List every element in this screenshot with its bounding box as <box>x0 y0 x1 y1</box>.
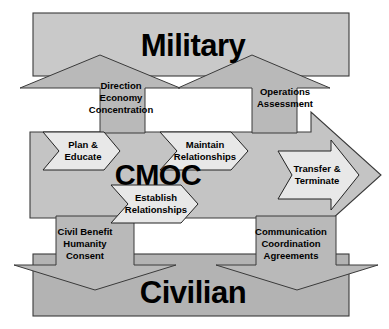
civilian-band-label: Civilian <box>140 275 246 310</box>
svg-text:Concentration: Concentration <box>89 104 154 115</box>
svg-text:Operations: Operations <box>260 86 310 97</box>
svg-text:Consent: Consent <box>66 250 105 261</box>
svg-text:Direction: Direction <box>100 80 141 91</box>
svg-text:Maintain: Maintain <box>186 139 225 150</box>
svg-text:Assessment: Assessment <box>257 98 314 109</box>
svg-text:Economy: Economy <box>100 92 143 103</box>
svg-text:Coordination: Coordination <box>261 238 320 249</box>
diagram-canvas: Military Civilian Direction Economy Conc… <box>0 0 389 329</box>
svg-text:Humanity: Humanity <box>63 238 107 249</box>
svg-text:Civil Benefit: Civil Benefit <box>58 226 114 237</box>
svg-text:Agreements: Agreements <box>264 250 319 261</box>
arrow-label-military-to-civilian-right: Communication Coordination Agreements <box>255 226 327 261</box>
svg-text:Transfer &: Transfer & <box>294 163 341 174</box>
svg-text:Terminate: Terminate <box>295 175 340 186</box>
svg-text:Plan &: Plan & <box>68 139 98 150</box>
arrow-label-civilian-to-military-right: Operations Assessment <box>257 86 314 109</box>
chevron-label-transfer-terminate: Transfer & Terminate <box>294 163 341 186</box>
svg-text:Establish: Establish <box>135 192 177 203</box>
cmoc-diagram: Military Civilian Direction Economy Conc… <box>0 0 389 329</box>
svg-text:Communication: Communication <box>255 226 327 237</box>
military-band-label: Military <box>141 28 247 63</box>
svg-text:Educate: Educate <box>65 151 102 162</box>
chevron-label-plan-educate: Plan & Educate <box>65 139 102 162</box>
svg-text:Relationships: Relationships <box>125 204 187 215</box>
